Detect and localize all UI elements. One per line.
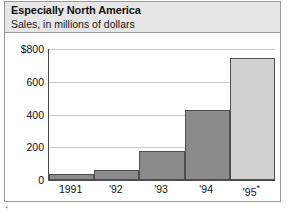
footnote-mark: * (5, 205, 8, 213)
page-title: Especially North America (11, 4, 141, 16)
bar-series (49, 49, 275, 180)
y-axis-tick-label: $800 (2, 43, 44, 55)
plot-box (48, 49, 275, 181)
x-axis-tick-label: '93 (138, 183, 183, 198)
bar-1992 (94, 170, 139, 180)
bar-1994 (185, 110, 230, 180)
y-axis-tick-label: 0 (2, 174, 44, 186)
x-axis-tick-label: '94 (184, 183, 229, 198)
y-axis-tick-label: 400 (2, 109, 44, 121)
y-axis-tick-label: 600 (2, 76, 44, 88)
bar-1993 (139, 151, 184, 180)
x-axis-tick-label: '95* (229, 183, 274, 198)
chart-figure: Especially North America Sales, in milli… (0, 0, 287, 215)
chart-frame: Especially North America Sales, in milli… (4, 1, 281, 202)
x-axis-labels: 1991 '92 '93 '94 '95* (48, 183, 274, 198)
bar-1991 (49, 174, 94, 180)
chart-subtitle: Sales, in millions of dollars (11, 18, 135, 30)
chart-header-band: Especially North America Sales, in milli… (5, 2, 280, 33)
x-axis-tick-label: 1991 (48, 183, 93, 198)
x-axis-tick-label: '92 (93, 183, 138, 198)
y-axis-tick-label: 200 (2, 141, 44, 153)
plot-area: $800 600 400 200 0 1991 '92 (5, 33, 280, 201)
bar-1995 (230, 58, 275, 180)
